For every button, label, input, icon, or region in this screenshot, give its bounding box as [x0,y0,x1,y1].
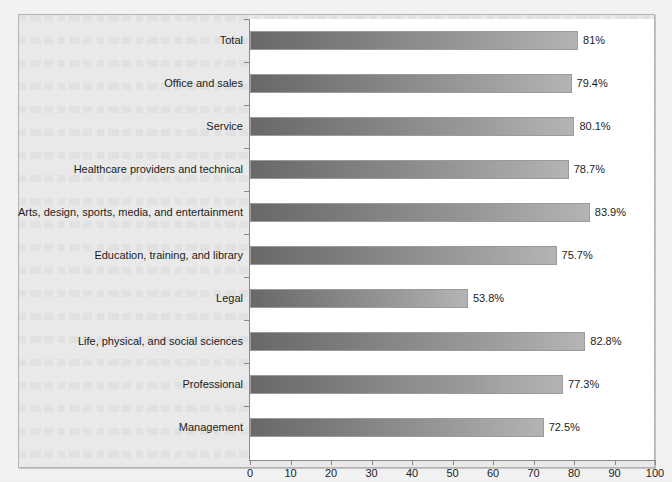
bar-value-label: 80.1% [579,117,610,136]
x-axis-tick-label: 70 [514,467,554,479]
x-axis-tick [372,460,373,465]
bar [250,74,572,93]
bar [250,332,585,351]
bar [250,31,578,50]
bar-value-label: 53.8% [473,289,504,308]
y-axis-tick [244,363,250,364]
bar-value-label: 72.5% [549,418,580,437]
category-label: Legal [216,277,243,320]
x-axis-tick [291,460,292,465]
x-axis-tick-label: 10 [271,467,311,479]
bar-row: Professional77.3% [19,363,656,406]
x-axis-tick [453,460,454,465]
bar-value-label: 82.8% [590,332,621,351]
x-axis-tick-label: 50 [433,467,473,479]
category-label: Education, training, and library [94,234,243,277]
bar-value-label: 83.9% [595,203,626,222]
bar-row: Total81% [19,19,656,62]
bar-row: Education, training, and library75.7% [19,234,656,277]
x-axis-tick [331,460,332,465]
y-axis-tick [244,62,250,63]
x-axis-tick-label: 30 [352,467,392,479]
bar-value-label: 79.4% [577,74,608,93]
category-label: Arts, design, sports, media, and enterta… [18,191,243,234]
x-axis-tick-label: 100 [635,467,672,479]
x-axis-tick [574,460,575,465]
y-axis-tick [244,234,250,235]
category-label: Professional [182,363,243,406]
x-axis-tick-label: 40 [392,467,432,479]
y-axis-tick [244,105,250,106]
bar [250,418,544,437]
y-axis-tick [244,320,250,321]
y-axis-tick [244,19,250,20]
bar-value-label: 77.3% [568,375,599,394]
bar-row: Healthcare providers and technical78.7% [19,148,656,191]
bar-row: Legal53.8% [19,277,656,320]
bar-row: Arts, design, sports, media, and enterta… [19,191,656,234]
x-axis-tick [493,460,494,465]
bar [250,289,468,308]
bar-row: Management72.5% [19,406,656,449]
bar-value-label: 81% [583,31,605,50]
y-axis-tick [244,277,250,278]
x-axis-tick [250,460,251,465]
bar-row: Life, physical, and social sciences82.8% [19,320,656,363]
category-label: Life, physical, and social sciences [78,320,243,363]
category-label: Total [220,19,243,62]
bar [250,203,590,222]
x-axis-tick-label: 60 [473,467,513,479]
x-axis-tick-label: 20 [311,467,351,479]
bar-value-label: 78.7% [574,160,605,179]
bar-row: Service80.1% [19,105,656,148]
bar [250,117,574,136]
y-axis-tick [244,148,250,149]
bar-value-label: 75.7% [562,246,593,265]
x-axis-tick-label: 80 [554,467,594,479]
category-label: Management [179,406,243,449]
bar [250,160,569,179]
x-axis-tick [615,460,616,465]
x-axis-tick [534,460,535,465]
x-axis-tick-label: 0 [230,467,270,479]
bar-row: Office and sales79.4% [19,62,656,105]
chart-frame: Total81%Office and sales79.4%Service80.1… [18,14,655,468]
y-axis-tick [244,406,250,407]
x-axis-tick [412,460,413,465]
category-label: Office and sales [164,62,243,105]
category-label: Healthcare providers and technical [74,148,243,191]
y-axis-tick [244,191,250,192]
bar [250,375,563,394]
x-axis-tick-label: 90 [595,467,635,479]
x-axis-tick [655,460,656,465]
category-label: Service [206,105,243,148]
bar [250,246,557,265]
